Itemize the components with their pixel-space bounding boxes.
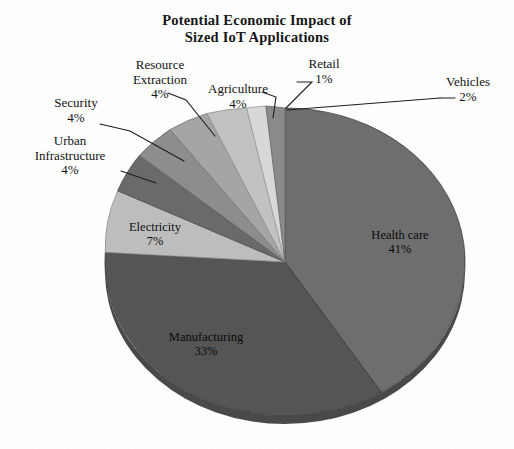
pie-chart-figure: Potential Economic Impact of Sized IoT A… — [0, 0, 514, 449]
callout-resource-extraction-line-1: Resource — [112, 58, 208, 73]
callout-vehicles-label: Vehicles — [430, 75, 506, 90]
callout-retail-label: Retail — [296, 57, 352, 72]
callout-resource-extraction-line-2: Extraction — [112, 73, 208, 88]
callout-agriculture-label: Agriculture — [196, 82, 280, 97]
slice-label-manufacturing-pct: 33% — [148, 344, 264, 358]
callout-agriculture-pct: 4% — [196, 97, 280, 112]
slice-label-electricity-pct: 7% — [110, 234, 200, 248]
callout-security-pct: 4% — [40, 111, 112, 126]
callout-urban-infrastructure-line-2: Infrastructure — [18, 149, 122, 164]
slice-label-manufacturing: Manufacturing 33% — [148, 330, 264, 358]
callout-retail: Retail 1% — [296, 57, 352, 86]
callout-vehicles-pct: 2% — [430, 90, 506, 105]
callout-urban-infrastructure-line-1: Urban — [18, 134, 122, 149]
slice-label-electricity: Electricity 7% — [110, 220, 200, 248]
pie-chart-graphic — [0, 0, 514, 449]
slice-label-health-care-pct: 41% — [352, 242, 448, 256]
callout-vehicles: Vehicles 2% — [430, 75, 506, 104]
slice-label-electricity-text: Electricity — [110, 220, 200, 234]
callout-resource-extraction: Resource Extraction 4% — [112, 58, 208, 102]
pie-slices — [105, 106, 465, 416]
slice-label-health-care-text: Health care — [352, 228, 448, 242]
leader-line-vehicles-long — [287, 98, 440, 110]
callout-security-label: Security — [40, 96, 112, 111]
callout-resource-extraction-pct: 4% — [112, 87, 208, 102]
slice-label-manufacturing-text: Manufacturing — [148, 330, 264, 344]
callout-agriculture: Agriculture 4% — [196, 82, 280, 111]
callout-security: Security 4% — [40, 96, 112, 125]
slice-label-health-care: Health care 41% — [352, 228, 448, 256]
callout-retail-pct: 1% — [296, 72, 352, 87]
callout-urban-infrastructure-pct: 4% — [18, 163, 122, 178]
callout-urban-infrastructure: Urban Infrastructure 4% — [18, 134, 122, 178]
